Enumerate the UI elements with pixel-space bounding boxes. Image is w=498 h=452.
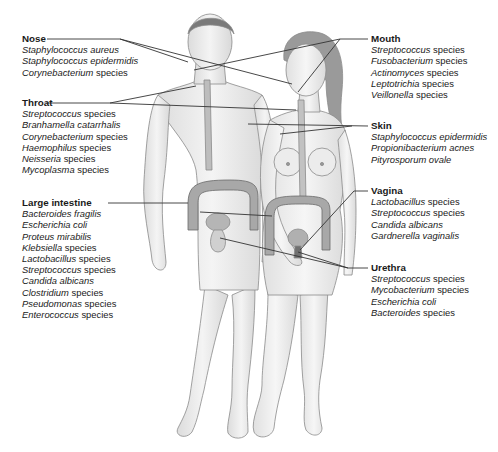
skin-organism: Staphylococcus epidermidis xyxy=(371,131,487,142)
throat-organism: Neisseria species xyxy=(22,153,128,164)
urethra-label-block: Urethra Streptococcus species Mycobacter… xyxy=(371,262,469,318)
urethra-organism: Streptococcus species xyxy=(371,273,469,284)
large-intestine-organism: Escherichia coli xyxy=(22,219,116,230)
throat-organism: Corynebacterium species xyxy=(22,131,128,142)
mouth-organism: Fusobacterium species xyxy=(371,55,467,66)
throat-organism: Streptococcus species xyxy=(22,108,128,119)
vagina-organism: Gardnerella vaginalis xyxy=(371,230,465,241)
vagina-label-block: Vagina Lactobacillus species Streptococc… xyxy=(371,185,465,241)
mouth-organism: Streptococcus species xyxy=(371,44,467,55)
urethra-title: Urethra xyxy=(371,262,469,273)
mouth-label-block: Mouth Streptococcus species Fusobacteriu… xyxy=(371,33,467,100)
large-intestine-organism: Pseudomonas species xyxy=(22,298,116,309)
mouth-organism: Leptotrichia species xyxy=(371,78,467,89)
vagina-title: Vagina xyxy=(371,185,465,196)
throat-organism: Mycoplasma species xyxy=(22,164,128,175)
urethra-organism: Bacteroides species xyxy=(371,307,469,318)
large-intestine-title: Large intestine xyxy=(22,197,116,208)
male-figure xyxy=(144,14,276,438)
vagina-organism: Streptococcus species xyxy=(371,207,465,218)
throat-organism: Branhamella catarrhalis xyxy=(22,119,128,130)
urethra-organism: Mycobacterium species xyxy=(371,284,469,295)
large-intestine-label-block: Large intestine Bacteroides fragilis Esc… xyxy=(22,197,116,320)
mouth-organism: Veillonella species xyxy=(371,89,467,100)
mouth-organism: Actinomyces species xyxy=(371,67,467,78)
female-figure xyxy=(253,32,356,437)
large-intestine-organism: Bacteroides fragilis xyxy=(22,208,116,219)
large-intestine-organism: Proteus mirabilis xyxy=(22,231,116,242)
nose-title: Nose xyxy=(22,33,138,44)
urethra-organism: Escherichia coli xyxy=(371,296,469,307)
large-intestine-organism: Lactobacillus species xyxy=(22,253,116,264)
skin-label-block: Skin Staphylococcus epidermidis Propioni… xyxy=(371,120,487,165)
large-intestine-organism: Candida albicans xyxy=(22,275,116,286)
vagina-organism: Candida albicans xyxy=(371,219,465,230)
throat-label-block: Throat Streptococcus species Branhamella… xyxy=(22,97,128,175)
skin-title: Skin xyxy=(371,120,487,131)
throat-organism: Haemophilus species xyxy=(22,142,128,153)
nose-organism: Staphylococcus epidermidis xyxy=(22,55,138,66)
mouth-title: Mouth xyxy=(371,33,467,44)
skin-organism: Pityrosporum ovale xyxy=(371,154,487,165)
large-intestine-organism: Enterococcus species xyxy=(22,309,116,320)
large-intestine-organism: Clostridium species xyxy=(22,287,116,298)
nose-organism: Staphylococcus aureus xyxy=(22,44,138,55)
skin-organism: Propionibacterium acnes xyxy=(371,142,487,153)
vagina-organism: Lactobacillus species xyxy=(371,196,465,207)
nose-label-block: Nose Staphylococcus aureus Staphylococcu… xyxy=(22,33,138,78)
throat-title: Throat xyxy=(22,97,128,108)
nose-organism: Corynebacterium species xyxy=(22,67,138,78)
large-intestine-organism: Streptococcus species xyxy=(22,264,116,275)
large-intestine-organism: Klebsiella species xyxy=(22,242,116,253)
